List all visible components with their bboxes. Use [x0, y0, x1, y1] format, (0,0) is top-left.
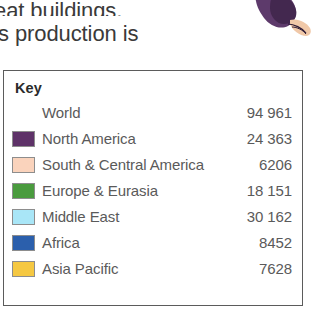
color-swatch-middle-east — [12, 209, 35, 225]
body-text-fragment: eat buildings, ts production is — [0, 0, 240, 48]
key-label: Middle East — [42, 207, 247, 227]
key-row-africa: Africa 8452 — [12, 230, 293, 256]
key-label: Asia Pacific — [42, 259, 259, 279]
key-row-north-america: North America 24 363 — [12, 126, 293, 152]
swatch-cell — [12, 235, 42, 251]
key-row-middle-east: Middle East 30 162 — [12, 204, 293, 230]
body-text-line-1: eat buildings, — [0, 0, 240, 16]
color-swatch-world — [12, 105, 35, 121]
key-row-world: World 94 961 — [12, 100, 293, 126]
key-label: Africa — [42, 233, 259, 253]
key-value: 6206 — [259, 155, 293, 175]
color-swatch-europe-eurasia — [12, 183, 35, 199]
color-swatch-africa — [12, 235, 35, 251]
key-label: World — [42, 103, 247, 123]
key-label: Europe & Eurasia — [42, 181, 247, 201]
swatch-cell — [12, 157, 42, 173]
body-text-line-2: ts production is — [0, 19, 240, 48]
key-value: 7628 — [259, 259, 293, 279]
key-value: 18 151 — [247, 181, 293, 201]
key-value: 94 961 — [247, 103, 293, 123]
key-label: North America — [42, 129, 247, 149]
swatch-cell — [12, 105, 42, 121]
color-swatch-south-central-america — [12, 157, 35, 173]
cartoon-figure-illustration — [232, 0, 312, 46]
key-list: World 94 961 North America 24 363 South … — [12, 100, 293, 282]
key-label: South & Central America — [42, 155, 259, 175]
color-swatch-asia-pacific — [12, 261, 35, 277]
key-value: 30 162 — [247, 207, 293, 227]
swatch-cell — [12, 209, 42, 225]
swatch-cell — [12, 183, 42, 199]
key-title: Key — [15, 78, 293, 98]
swatch-cell — [12, 261, 42, 277]
key-row-asia-pacific: Asia Pacific 7628 — [12, 256, 293, 282]
key-row-south-central-america: South & Central America 6206 — [12, 152, 293, 178]
swatch-cell — [12, 131, 42, 147]
key-row-europe-eurasia: Europe & Eurasia 18 151 — [12, 178, 293, 204]
key-box: Key World 94 961 North America 24 363 So… — [3, 70, 303, 306]
key-value: 8452 — [259, 233, 293, 253]
key-value: 24 363 — [247, 129, 293, 149]
color-swatch-north-america — [12, 131, 35, 147]
